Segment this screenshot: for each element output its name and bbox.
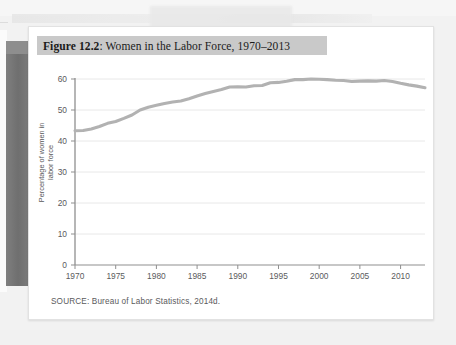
line-chart-svg: 0102030405060197019751980198519901995200… (29, 67, 433, 282)
page-rule (0, 22, 8, 23)
source-note: SOURCE: Bureau of Labor Statistics, 2014… (51, 297, 220, 306)
chart-plot-area: Percentage of women inlabor force 010203… (29, 67, 433, 282)
x-axis-tick-label: 1995 (269, 271, 288, 281)
y-axis-tick-label: 60 (58, 74, 68, 84)
book-page-edge (6, 41, 28, 286)
page-title: Figure 12.2: Women in the Labor Force, 1… (37, 40, 290, 52)
x-axis-tick-label: 2005 (351, 271, 370, 281)
figure-title-rest: : Women in the Labor Force, 1970–2013 (99, 40, 290, 52)
x-axis-tick-label: 1970 (66, 271, 85, 281)
y-axis-tick-label: 30 (58, 167, 68, 177)
y-axis-tick-label: 20 (58, 198, 68, 208)
x-axis-tick-label: 2000 (310, 271, 329, 281)
x-axis-tick-label: 1985 (188, 271, 207, 281)
page-blurred-header-block (150, 6, 292, 28)
y-axis-tick-label: 0 (62, 260, 67, 270)
figure-card: Figure 12.2: Women in the Labor Force, 1… (28, 26, 434, 320)
page-bottom-band (0, 330, 456, 345)
data-series-line (75, 79, 425, 131)
figure-title-badge: Figure 12.2: Women in the Labor Force, 1… (37, 36, 327, 55)
x-axis-tick-label: 1975 (106, 271, 125, 281)
y-axis-tick-label: 40 (58, 136, 68, 146)
y-axis-tick-label: 10 (58, 229, 68, 239)
book-page-edge-highlight (6, 41, 28, 54)
x-axis-tick-label: 1980 (147, 271, 166, 281)
x-axis-tick-label: 2010 (391, 271, 410, 281)
x-axis-tick-label: 1990 (228, 271, 247, 281)
y-axis-tick-label: 50 (58, 105, 68, 115)
figure-number-label: Figure 12.2 (43, 40, 99, 52)
